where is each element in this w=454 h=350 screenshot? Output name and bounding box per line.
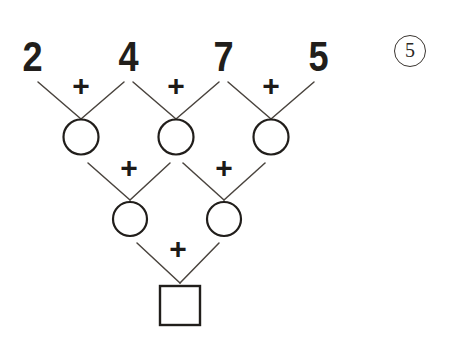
top-number-4: 5	[301, 36, 335, 78]
circle-slot-r3-1[interactable]	[113, 202, 147, 236]
problem-number-badge: 5	[394, 35, 426, 67]
plus-sign-r1-3: +	[256, 71, 286, 101]
row3-circles	[113, 202, 241, 236]
top-number-2: 4	[111, 36, 145, 78]
plus-sign-r1-2: +	[161, 71, 191, 101]
plus-sign-r3-1: +	[163, 234, 193, 264]
circle-slot-r2-3[interactable]	[254, 120, 289, 155]
plus-sign-r2-1: +	[114, 153, 144, 183]
top-number-1: 2	[15, 36, 49, 78]
circle-slot-r2-2[interactable]	[159, 120, 194, 155]
answer-square-slot[interactable]	[160, 286, 200, 325]
problem-number-label: 5	[405, 40, 415, 62]
plus-sign-r1-1: +	[66, 71, 96, 101]
circle-slot-r3-2[interactable]	[207, 202, 241, 236]
top-number-3: 7	[206, 36, 240, 78]
circle-slot-r2-1[interactable]	[64, 120, 99, 155]
plus-sign-r2-2: +	[209, 153, 239, 183]
worksheet-canvas: 2 4 7 5 + + + + + + 5	[0, 0, 454, 350]
row2-circles	[64, 120, 289, 155]
